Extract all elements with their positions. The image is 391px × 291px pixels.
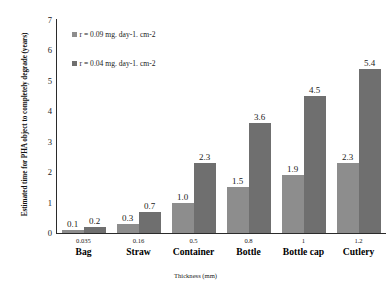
y-axis-tick-label: 5 xyxy=(48,76,52,86)
x-axis-thickness-value: 1.2 xyxy=(331,236,386,246)
bar-item[interactable]: 2.3 xyxy=(194,20,216,233)
bar-rect[interactable] xyxy=(117,224,139,233)
y-axis-tick-label: 4 xyxy=(48,106,52,116)
bar-value-label: 0.3 xyxy=(122,213,133,223)
bar-group: 1.02.3 xyxy=(172,20,216,233)
bar-value-label: 4.5 xyxy=(309,85,320,95)
bar-group: 1.94.5 xyxy=(282,20,326,233)
x-axis-category-label: Straw xyxy=(111,246,166,259)
bar-item[interactable]: 1.9 xyxy=(282,20,304,233)
bar-chart: Estimated time for PHA object to complet… xyxy=(0,0,391,291)
bar-value-label: 5.4 xyxy=(364,58,375,68)
y-axis-tick-label: 2 xyxy=(48,167,52,177)
x-axis-thickness-value: 0.8 xyxy=(221,236,276,246)
x-axis-thickness-value: 0.035 xyxy=(56,236,111,246)
y-axis-tick-label: 7 xyxy=(48,15,52,25)
x-axis-category-label: Bag xyxy=(56,246,111,259)
x-axis-label-cell: 1.2Cutlery xyxy=(331,236,386,259)
bar-rect[interactable] xyxy=(337,163,359,233)
bar-rect[interactable] xyxy=(249,123,271,233)
bar-item[interactable]: 4.5 xyxy=(304,20,326,233)
legend-item-series-a: r = 0.09 mg. day-1. cm-2 xyxy=(72,30,156,39)
bar-value-label: 2.3 xyxy=(342,152,353,162)
x-axis-category-label: Bottle cap xyxy=(276,246,331,259)
x-axis-labels: 0.035Bag0.16Straw0.5Container0.8Bottle1B… xyxy=(56,236,386,259)
bar-item[interactable]: 2.3 xyxy=(337,20,359,233)
bar-rect[interactable] xyxy=(84,227,106,233)
x-axis-label-cell: 1Bottle cap xyxy=(276,236,331,259)
y-axis-tick-label: 0 xyxy=(48,228,52,238)
bar-value-label: 1.0 xyxy=(177,192,188,202)
x-axis-category-label: Bottle xyxy=(221,246,276,259)
y-axis-tick-label: 6 xyxy=(48,45,52,55)
bar-rect[interactable] xyxy=(172,203,194,233)
x-axis-title: Thickness (mm) xyxy=(0,272,391,279)
bar-item[interactable]: 5.4 xyxy=(359,20,381,233)
bar-group: 2.35.4 xyxy=(337,20,381,233)
bar-value-label: 0.2 xyxy=(89,216,100,226)
bar-value-label: 2.3 xyxy=(199,152,210,162)
legend-label-series-b: r = 0.04 mg. day-1. cm-2 xyxy=(80,59,156,68)
x-axis-label-cell: 0.8Bottle xyxy=(221,236,276,259)
bar-value-label: 1.9 xyxy=(287,164,298,174)
y-axis-tick-label: 3 xyxy=(48,137,52,147)
y-axis-tick-label: 1 xyxy=(48,198,52,208)
bar-group: 1.53.6 xyxy=(227,20,271,233)
x-axis-thickness-value: 1 xyxy=(276,236,331,246)
bar-rect[interactable] xyxy=(62,230,84,233)
x-axis-line xyxy=(56,233,386,234)
bar-rect[interactable] xyxy=(227,187,249,233)
legend-label-series-a: r = 0.09 mg. day-1. cm-2 xyxy=(80,30,156,39)
bar-item[interactable]: 1.0 xyxy=(172,20,194,233)
bar-rect[interactable] xyxy=(282,175,304,233)
x-axis-label-cell: 0.16Straw xyxy=(111,236,166,259)
legend-swatch-icon-series-a xyxy=(72,32,77,37)
bar-rect[interactable] xyxy=(139,212,161,233)
bar-rect[interactable] xyxy=(194,163,216,233)
bar-value-label: 0.1 xyxy=(67,219,78,229)
x-axis-category-label: Cutlery xyxy=(331,246,386,259)
x-axis-category-label: Container xyxy=(166,246,221,259)
x-axis-thickness-value: 0.16 xyxy=(111,236,166,246)
bar-value-label: 3.6 xyxy=(254,112,265,122)
bar-rect[interactable] xyxy=(304,96,326,233)
bar-rect[interactable] xyxy=(359,69,381,233)
y-axis-title: Estimated time for PHA object to complet… xyxy=(20,5,29,245)
bar-value-label: 1.5 xyxy=(232,176,243,186)
bar-item[interactable]: 1.5 xyxy=(227,20,249,233)
legend-swatch-icon-series-b xyxy=(72,61,77,66)
x-axis-label-cell: 0.5Container xyxy=(166,236,221,259)
x-axis-thickness-value: 0.5 xyxy=(166,236,221,246)
x-axis-label-cell: 0.035Bag xyxy=(56,236,111,259)
bar-value-label: 0.7 xyxy=(144,201,155,211)
bar-item[interactable]: 3.6 xyxy=(249,20,271,233)
legend: r = 0.09 mg. day-1. cm-2 r = 0.04 mg. da… xyxy=(72,30,156,88)
legend-item-series-b: r = 0.04 mg. day-1. cm-2 xyxy=(72,59,156,68)
